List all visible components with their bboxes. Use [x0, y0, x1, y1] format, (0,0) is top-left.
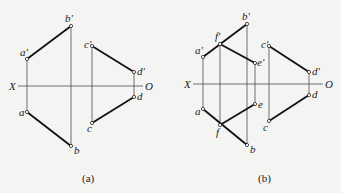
- label-d-prime: d': [312, 65, 321, 77]
- label-f-prime: f': [215, 30, 221, 42]
- label-c: c: [87, 122, 92, 134]
- line-f-prime-e-prime: [220, 44, 255, 63]
- line-fe: [220, 104, 255, 125]
- point-d: [132, 95, 135, 98]
- x-axis-label: X: [183, 78, 192, 90]
- line-c-prime-d-prime: [269, 46, 309, 72]
- label-a: a: [195, 105, 201, 117]
- line-ab: [27, 112, 71, 146]
- point-a: [201, 107, 204, 110]
- point-b-prime: [69, 24, 72, 27]
- label-f: f: [216, 126, 221, 138]
- line-cd: [269, 95, 309, 121]
- line-a-prime-b-prime: [27, 26, 71, 59]
- line-ab: [203, 109, 247, 145]
- label-c-prime: c': [84, 38, 92, 50]
- label-a: a: [19, 106, 25, 118]
- point-e: [253, 102, 256, 105]
- label-b-prime: b': [65, 12, 74, 24]
- line-c-prime-d-prime: [92, 46, 134, 72]
- point-d: [307, 93, 310, 96]
- point-f-prime: [218, 42, 221, 45]
- label-b: b: [74, 144, 80, 156]
- label-b: b: [250, 143, 256, 155]
- projection-diagram: X O a' b' c' d' a b c d (a) X O: [0, 0, 341, 193]
- label-b-prime: b': [242, 10, 251, 22]
- caption-a: (a): [82, 172, 95, 185]
- label-d-prime: d': [137, 65, 146, 77]
- label-e: e: [258, 98, 263, 110]
- line-cd: [92, 97, 134, 123]
- panel-a: X O a' b' c' d' a b c d (a): [8, 12, 153, 185]
- label-d: d: [312, 88, 318, 100]
- o-axis-label: O: [325, 78, 333, 90]
- panel-b: X O a' b' f' e' c' d' a: [183, 10, 333, 185]
- x-axis-label: X: [8, 80, 17, 92]
- label-d: d: [137, 90, 143, 102]
- point-b: [245, 143, 248, 146]
- o-axis-label: O: [145, 80, 153, 92]
- label-a-prime: a': [195, 44, 204, 56]
- label-a-prime: a': [20, 46, 29, 58]
- label-c: c: [263, 121, 268, 133]
- caption-b: (b): [258, 172, 271, 185]
- point-d-prime: [132, 70, 135, 73]
- line-a-prime-b-prime: [203, 24, 247, 57]
- point-b-prime: [245, 22, 248, 25]
- label-c-prime: c': [261, 38, 269, 50]
- point-d-prime: [307, 70, 310, 73]
- point-b: [69, 144, 72, 147]
- point-a: [25, 110, 28, 113]
- label-e-prime: e': [257, 56, 265, 68]
